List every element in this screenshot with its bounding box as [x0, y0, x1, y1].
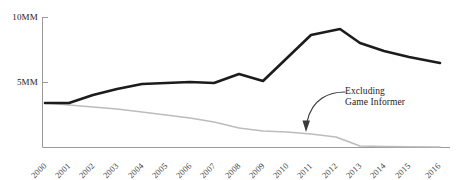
y-axis-label-10mm: 10MM	[2, 12, 38, 22]
line-chart-figure: 10MM 5MM 2000 2001 2002 2003 2004 2005 2…	[0, 0, 461, 180]
annotation-label: Excluding Game Informer	[345, 86, 405, 108]
annotation-arrow-head	[303, 121, 311, 133]
y-axis-label-5mm: 5MM	[2, 77, 38, 87]
series-line-excluding-game-informer	[45, 103, 440, 147]
annotation-label-line1: Excluding	[345, 86, 405, 97]
annotation-arrow-curve	[307, 92, 345, 122]
annotation-label-line2: Game Informer	[345, 97, 405, 108]
